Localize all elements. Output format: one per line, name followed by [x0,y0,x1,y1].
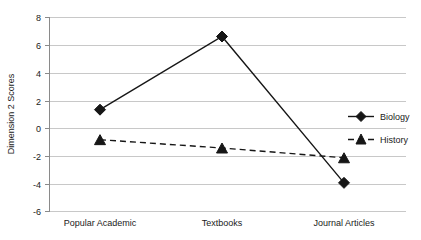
y-tick-label-neg6: -6 [33,207,41,217]
x-label-journal-articles: Journal Articles [313,218,375,228]
chart-canvas: 8 6 4 2 0 -2 -4 -6 Dimension 2 Scores Po… [0,0,421,240]
x-tick-labels: Popular Academic Textbooks Journal Artic… [64,218,375,228]
y-axis-title: Dimension 2 Scores [6,73,16,154]
x-label-popular-academic: Popular Academic [64,218,137,228]
x-label-textbooks: Textbooks [202,218,243,228]
y-tick-label-4: 4 [36,69,41,79]
y-tick-label-neg4: -4 [33,180,41,190]
legend-label-history: History [380,135,409,145]
legend-label-biology: Biology [380,112,410,122]
y-tick-label-2: 2 [36,97,41,107]
y-tick-label-8: 8 [36,13,41,23]
y-tick-label-neg2: -2 [33,152,41,162]
y-tick-labels: 8 6 4 2 0 -2 -4 -6 [33,13,41,217]
y-tickmarks [45,18,49,212]
line-chart: 8 6 4 2 0 -2 -4 -6 Dimension 2 Scores Po… [0,0,421,240]
y-tick-label-0: 0 [36,124,41,134]
plot-area [49,17,406,211]
y-tick-label-6: 6 [36,41,41,51]
